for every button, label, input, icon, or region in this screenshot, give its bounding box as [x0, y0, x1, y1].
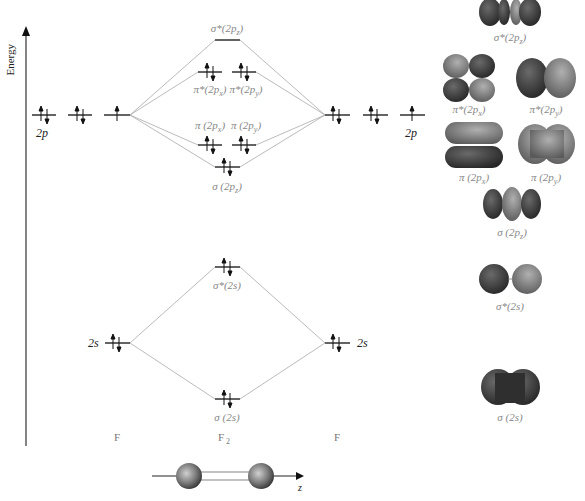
right-2s-label: 2s — [357, 336, 368, 350]
electron-single-icon — [410, 106, 414, 121]
energy-label: Energy — [4, 44, 16, 76]
mo-label-sigma-star-2s: σ*(2s) — [213, 279, 241, 292]
right-2p-label: 2p — [405, 126, 417, 140]
mo-label-sigma-2s: σ (2s) — [214, 411, 240, 424]
mo-label-sigma-2pz: σ (2pz) — [212, 180, 242, 195]
sigma-star-2pz-shape-icon — [479, 0, 541, 26]
atom-label-center: F2 — [218, 431, 230, 446]
mo-label-sigma-star-2pz: σ*(2pz) — [211, 22, 244, 37]
shape-label-pi-star-2px: π*(2px) — [453, 103, 486, 118]
shape-label-pi-2px: π (2px) — [459, 171, 490, 186]
atom-label-right: F — [334, 431, 340, 443]
atom-sphere-icon — [176, 463, 202, 489]
sigma-2s-shape-icon — [481, 369, 540, 405]
pi-star-2py-shape-icon — [516, 58, 576, 98]
mo-diagram: Energy — [0, 0, 585, 501]
orbital-shapes: σ*(2pz) π*(2px) π*(2py) π (2px) π (2py) — [443, 0, 576, 424]
atom-sphere-icon — [248, 463, 274, 489]
left-2s-label: 2s — [88, 336, 99, 350]
arrow-up-icon — [22, 26, 30, 36]
mo-label-pi-2px: π (2px) — [195, 119, 226, 134]
atom-label-left: F — [114, 431, 120, 443]
mo-label-pi-2py: π (2py) — [231, 119, 262, 134]
shape-label-sigma-2pz: σ (2pz) — [497, 226, 527, 241]
left-2p-label: 2p — [36, 126, 48, 140]
molecule-model: z — [152, 463, 302, 493]
sigma-star-2s-shape-icon — [479, 264, 542, 294]
pi-star-2px-shape-icon — [443, 54, 495, 102]
electrons — [39, 63, 414, 408]
correlation-lines — [130, 40, 325, 399]
shape-label-pi-2py: π (2py) — [531, 171, 562, 186]
shape-label-sigma-star-2s: σ*(2s) — [496, 300, 524, 313]
mo-label-pi-star-2py: π*(2py) — [230, 83, 263, 98]
shape-label-sigma-star-2pz: σ*(2pz) — [494, 31, 527, 46]
z-axis-label: z — [297, 482, 302, 493]
pi-2py-shape-icon — [518, 124, 575, 164]
shape-label-sigma-2s: σ (2s) — [497, 411, 523, 424]
mo-label-pi-star-2px: π*(2px) — [194, 83, 227, 98]
sigma-2pz-shape-icon — [483, 187, 541, 221]
pi-2px-shape-icon — [445, 122, 503, 168]
electron-single-icon — [115, 106, 119, 121]
shape-label-pi-star-2py: π*(2py) — [530, 103, 563, 118]
energy-axis: Energy — [4, 26, 30, 446]
